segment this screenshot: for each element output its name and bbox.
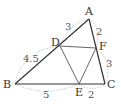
- length-af: 2: [96, 26, 102, 37]
- label-e: E: [75, 86, 83, 99]
- label-f: F: [99, 40, 107, 53]
- segment-de: [60, 46, 79, 84]
- label-d: D: [51, 36, 60, 49]
- length-ad: 3: [65, 21, 71, 32]
- label-c: C: [107, 78, 115, 91]
- triangle-diagram: A B C D E F 3 4.5 2 3 5 2: [0, 0, 121, 104]
- length-fc: 3: [106, 58, 112, 69]
- segment-df: [60, 46, 96, 48]
- label-a: A: [84, 5, 94, 18]
- length-ec: 2: [88, 89, 94, 100]
- length-be: 5: [43, 89, 49, 100]
- segment-ef: [79, 48, 96, 84]
- side-ab: [15, 19, 89, 84]
- length-db: 4.5: [23, 53, 39, 64]
- label-b: B: [3, 78, 11, 91]
